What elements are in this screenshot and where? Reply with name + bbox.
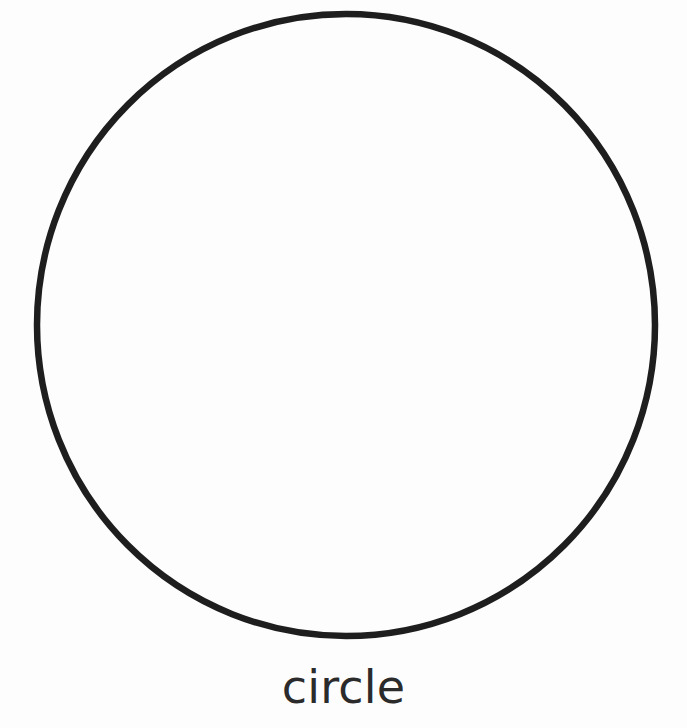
- shape-label: circle: [0, 664, 687, 710]
- circle-outline-path: [37, 14, 655, 636]
- circle-outline-icon: [0, 0, 687, 660]
- shape-flashcard: circle: [0, 0, 687, 728]
- shape-drawing-area: [0, 0, 687, 660]
